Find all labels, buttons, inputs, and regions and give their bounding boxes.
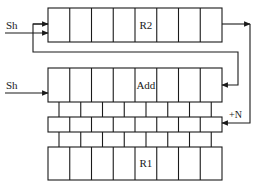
sh-add-label: Sh (6, 79, 18, 91)
r1-label: R1 (139, 157, 152, 169)
r2-label: R2 (139, 19, 152, 31)
partial-product-rows (48, 102, 222, 147)
add-label: Add (136, 79, 155, 91)
shift-add-diagram: R2 Add R1 Sh Sh +N (0, 0, 259, 190)
register-r1 (48, 147, 222, 180)
plus-n-label: +N (229, 109, 242, 120)
register-r2 (48, 8, 222, 42)
register-add (48, 68, 222, 102)
sh-r2-label: Sh (6, 19, 18, 31)
